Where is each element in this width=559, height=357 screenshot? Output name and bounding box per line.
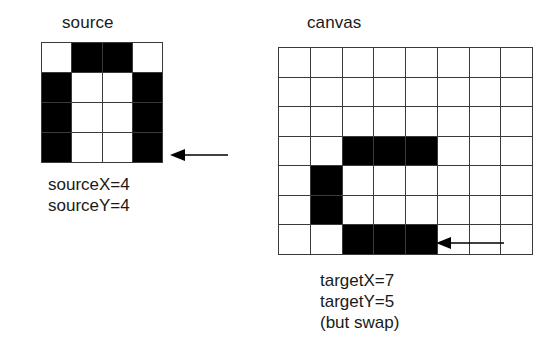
canvas-cell-r3-c1 <box>311 137 342 166</box>
source-cell-r2-c0 <box>42 103 71 132</box>
canvas-cell-r0-c3 <box>374 48 405 77</box>
canvas-cell-r2-c2 <box>343 107 374 136</box>
canvas-cell-r4-c2 <box>343 166 374 195</box>
canvas-pointer-arrow <box>434 234 506 252</box>
canvas-grid <box>278 47 533 255</box>
canvas-cell-r4-c0 <box>279 166 310 195</box>
canvas-cell-r3-c2 <box>343 137 374 166</box>
canvas-cell-r4-c4 <box>406 166 437 195</box>
canvas-cell-r0-c0 <box>279 48 310 77</box>
canvas-cell-r0-c4 <box>406 48 437 77</box>
canvas-cell-r1-c5 <box>438 78 469 107</box>
source-cell-r1-c3 <box>133 73 162 102</box>
canvas-cell-r4-c5 <box>438 166 469 195</box>
canvas-caption-line-note: (but swap) <box>320 312 399 333</box>
canvas-cell-r0-c5 <box>438 48 469 77</box>
source-cell-r0-c1 <box>72 43 101 72</box>
source-cell-r1-c0 <box>42 73 71 102</box>
canvas-cell-r5-c4 <box>406 196 437 225</box>
source-cell-r3-c3 <box>133 133 162 162</box>
canvas-cell-r0-c1 <box>311 48 342 77</box>
canvas-cell-r5-c0 <box>279 196 310 225</box>
source-cell-r1-c2 <box>103 73 132 102</box>
canvas-cell-r2-c3 <box>374 107 405 136</box>
canvas-cell-r3-c6 <box>470 137 501 166</box>
source-panel-title: source <box>62 14 114 31</box>
source-cell-r3-c0 <box>42 133 71 162</box>
canvas-cell-r2-c0 <box>279 107 310 136</box>
canvas-caption-line-y: targetY=5 <box>320 291 399 312</box>
source-cell-r0-c2 <box>103 43 132 72</box>
canvas-cell-r4-c7 <box>501 166 532 195</box>
canvas-cell-r4-c1 <box>311 166 342 195</box>
source-cell-r2-c3 <box>133 103 162 132</box>
canvas-cell-r5-c5 <box>438 196 469 225</box>
source-cell-r0-c3 <box>133 43 162 72</box>
canvas-cell-r2-c7 <box>501 107 532 136</box>
source-caption-line-x: sourceX=4 <box>48 174 130 195</box>
canvas-cell-r3-c5 <box>438 137 469 166</box>
canvas-cell-r2-c1 <box>311 107 342 136</box>
canvas-cell-r0-c2 <box>343 48 374 77</box>
figure-root: source sourceX=4 sourceY=4 canvas target… <box>0 0 559 357</box>
source-cell-r1-c1 <box>72 73 101 102</box>
canvas-cell-r2-c4 <box>406 107 437 136</box>
source-cell-r3-c1 <box>72 133 101 162</box>
canvas-cell-r5-c7 <box>501 196 532 225</box>
canvas-cell-r3-c3 <box>374 137 405 166</box>
canvas-caption-line-x: targetX=7 <box>320 270 399 291</box>
canvas-cell-r0-c7 <box>501 48 532 77</box>
canvas-cell-r5-c1 <box>311 196 342 225</box>
source-cell-r2-c1 <box>72 103 101 132</box>
source-grid <box>41 42 163 163</box>
source-cell-r0-c0 <box>42 43 71 72</box>
canvas-cell-r6-c2 <box>343 225 374 254</box>
canvas-cell-r2-c6 <box>470 107 501 136</box>
canvas-cell-r0-c6 <box>470 48 501 77</box>
canvas-cell-r6-c0 <box>279 225 310 254</box>
canvas-cell-r1-c0 <box>279 78 310 107</box>
canvas-cell-r6-c3 <box>374 225 405 254</box>
source-cell-r2-c2 <box>103 103 132 132</box>
canvas-cell-r5-c6 <box>470 196 501 225</box>
canvas-cell-r2-c5 <box>438 107 469 136</box>
canvas-cell-r1-c7 <box>501 78 532 107</box>
canvas-cell-r1-c2 <box>343 78 374 107</box>
canvas-cell-r4-c6 <box>470 166 501 195</box>
source-caption-line-y: sourceY=4 <box>48 195 130 216</box>
canvas-cell-r1-c3 <box>374 78 405 107</box>
canvas-cell-r3-c0 <box>279 137 310 166</box>
canvas-cell-r4-c3 <box>374 166 405 195</box>
canvas-panel-title: canvas <box>307 14 361 31</box>
canvas-cell-r1-c1 <box>311 78 342 107</box>
canvas-cell-r1-c6 <box>470 78 501 107</box>
canvas-caption: targetX=7 targetY=5 (but swap) <box>320 270 399 333</box>
canvas-cell-r5-c2 <box>343 196 374 225</box>
canvas-cell-r1-c4 <box>406 78 437 107</box>
source-cell-r3-c2 <box>103 133 132 162</box>
canvas-cell-r3-c7 <box>501 137 532 166</box>
canvas-cell-r5-c3 <box>374 196 405 225</box>
source-caption: sourceX=4 sourceY=4 <box>48 174 130 216</box>
canvas-cell-r6-c1 <box>311 225 342 254</box>
source-pointer-arrow <box>168 146 230 164</box>
canvas-cell-r6-c4 <box>406 225 437 254</box>
canvas-cell-r3-c4 <box>406 137 437 166</box>
